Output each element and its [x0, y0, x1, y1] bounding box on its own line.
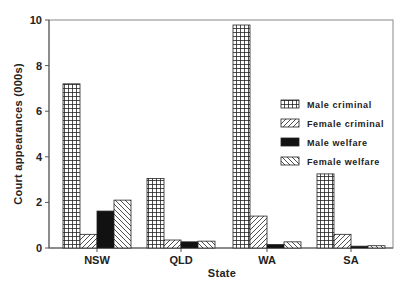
y-tick-label: 6 [36, 105, 42, 117]
bar-male-welfare-wa [267, 245, 284, 248]
y-tick-label: 4 [36, 151, 43, 163]
legend-swatch-icon [281, 138, 299, 146]
bar-female-criminal-wa [250, 216, 267, 248]
legend-label: Male welfare [307, 138, 368, 148]
y-tick-label: 10 [30, 14, 42, 26]
bar-chart: 0246810NSWQLDWASA Male criminalFemale cr… [0, 0, 410, 293]
bar-female-criminal-sa [334, 234, 351, 248]
legend-label: Female criminal [307, 119, 384, 129]
y-axis-title: Court appearances (000s) [12, 63, 24, 205]
bar-female-welfare-wa [284, 242, 301, 248]
bar-female-welfare-qld [198, 241, 215, 248]
legend-swatch-icon [281, 119, 299, 127]
bar-female-welfare-nsw [114, 200, 131, 248]
bar-female-criminal-nsw [80, 234, 97, 248]
bar-male-welfare-qld [181, 242, 198, 248]
bar-male-criminal-nsw [63, 84, 80, 248]
legend-label: Female welfare [307, 157, 380, 167]
legend-swatch-icon [281, 157, 299, 165]
x-tick-label: NSW [84, 254, 110, 266]
bar-male-welfare-sa [351, 246, 368, 248]
y-tick-label: 8 [36, 60, 42, 72]
y-tick-label: 0 [36, 242, 42, 254]
legend-label: Male criminal [307, 100, 372, 110]
x-tick-label: QLD [169, 254, 192, 266]
legend: Male criminalFemale criminalMale welfare… [281, 100, 384, 167]
bar-male-criminal-wa [233, 25, 250, 248]
y-tick-label: 2 [36, 196, 42, 208]
x-axis-title: State [208, 267, 236, 279]
bar-male-welfare-nsw [97, 211, 114, 248]
bar-male-criminal-qld [147, 178, 164, 248]
legend-swatch-icon [281, 100, 299, 108]
x-tick-label: SA [343, 254, 358, 266]
x-tick-label: WA [258, 254, 276, 266]
bar-male-criminal-sa [317, 174, 334, 248]
bar-female-welfare-sa [368, 246, 385, 248]
bar-female-criminal-qld [164, 240, 181, 248]
bars [63, 25, 385, 248]
